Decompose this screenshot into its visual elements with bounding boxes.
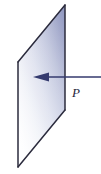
- point-label-p: P: [71, 85, 80, 100]
- plane-and-ray-diagram: P: [0, 0, 101, 174]
- figure-container: P: [0, 0, 101, 174]
- plane-surface-highlight: [18, 5, 65, 167]
- plane-surface-group: [18, 5, 65, 167]
